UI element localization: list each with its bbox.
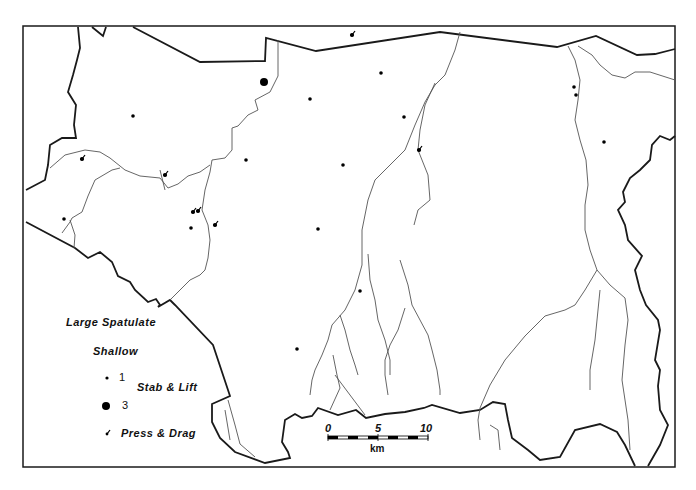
scale-tick-10: 10 xyxy=(420,422,432,434)
scale-tick-5: 5 xyxy=(375,422,381,434)
legend-group-label: Stab & Lift xyxy=(137,381,198,393)
scale-tick-0: 0 xyxy=(325,422,331,434)
rivers xyxy=(50,32,675,457)
legend-subtitle: Shallow xyxy=(93,345,138,357)
points-large-dot xyxy=(260,78,268,86)
legend-title: Large Spatulate xyxy=(66,316,156,328)
points-small-dot xyxy=(62,71,606,351)
map-canvas xyxy=(0,0,696,490)
legend-value-small: 1 xyxy=(119,371,126,383)
legend-symbols xyxy=(102,376,110,435)
map-frame xyxy=(23,26,675,467)
legend-small-dot-icon xyxy=(105,376,108,379)
scale-bar xyxy=(328,434,428,441)
legend-value-large: 3 xyxy=(122,399,129,411)
scale-unit: km xyxy=(370,443,384,454)
legend-large-dot-icon xyxy=(102,402,110,410)
legend-tick-label: Press & Drag xyxy=(121,427,196,439)
